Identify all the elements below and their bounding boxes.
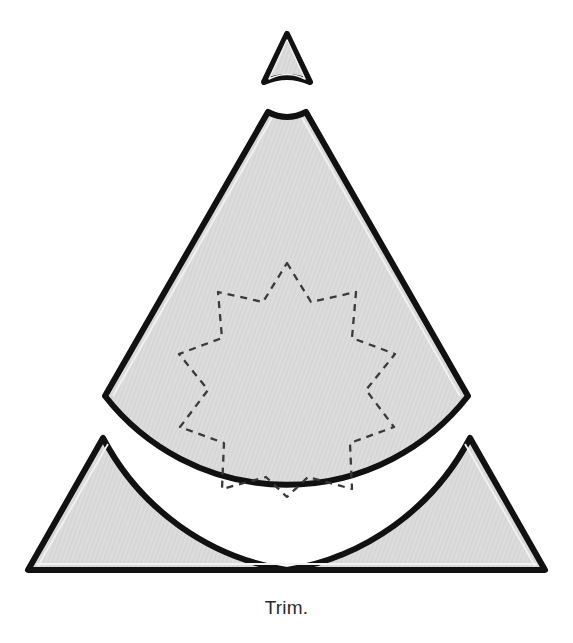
figure-root: Trim. [0,0,573,643]
figure-caption: Trim. [0,596,573,620]
trim-template-diagram [0,0,573,643]
